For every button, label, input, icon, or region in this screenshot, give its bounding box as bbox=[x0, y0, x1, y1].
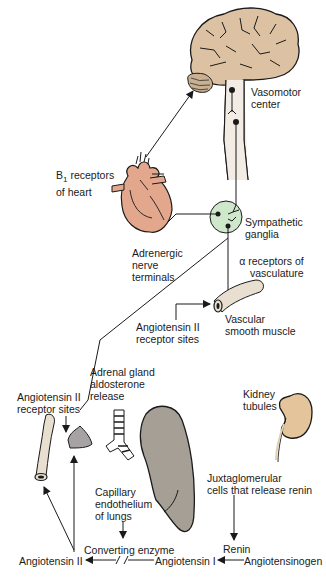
renin-label: Renin bbox=[223, 543, 250, 555]
adrenergic-terminals-label: Adrenergicnerveterminals bbox=[132, 247, 183, 283]
blood-vessel-icon bbox=[35, 414, 55, 480]
sympathetic-ganglia-icon bbox=[210, 201, 242, 233]
adrenal-gland-label: Adrenal glandaldosteronerelease bbox=[90, 366, 155, 402]
angiotensin-i-label: Angiotensin I bbox=[155, 555, 216, 567]
alpha-receptors-label: α receptors ofvasculature bbox=[236, 255, 304, 279]
adrenal-gland-icon bbox=[68, 426, 92, 448]
kidney-icon bbox=[276, 394, 312, 462]
vascular-smooth-muscle-label: Vascularsmooth muscle bbox=[225, 313, 296, 337]
angiotensin-receptor-sites-label-left: Angiotensin IIreceptor sites bbox=[17, 391, 81, 415]
angiotensinogen-label: Angiotensinogen bbox=[244, 555, 322, 567]
vasomotor-center-label: Vasomotorcenter bbox=[251, 86, 301, 110]
angiotensin-receptor-sites-label-top: Angiotensin IIreceptor sites bbox=[136, 321, 200, 345]
juxtaglomerular-label: Juxtaglomerularcells that release renin bbox=[207, 472, 312, 496]
kidney-tubules-label: Kidneytubules bbox=[243, 388, 277, 412]
trachea-icon bbox=[106, 410, 134, 460]
b1-receptors-label: B1 receptorsof heart bbox=[56, 169, 114, 198]
raas-diagram: Vasomotorcenter B1 receptorsof heart Sym… bbox=[0, 0, 326, 577]
arrow-heart-to-brain bbox=[146, 91, 193, 157]
angiotensin-ii-label: Angiotensin II bbox=[19, 555, 83, 567]
vascular-smooth-muscle-icon bbox=[214, 280, 263, 312]
capillary-endothelium-label: Capillaryendotheliumof lungs bbox=[95, 486, 152, 522]
heart-icon bbox=[112, 152, 172, 232]
sympathetic-ganglia-label: Sympatheticganglia bbox=[245, 216, 303, 240]
